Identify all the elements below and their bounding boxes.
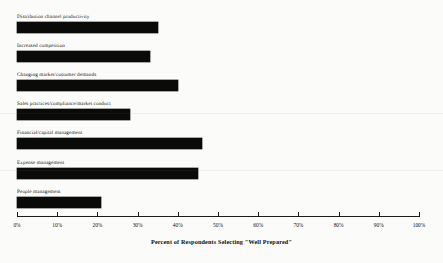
bar xyxy=(17,138,202,149)
x-axis-tick xyxy=(17,212,18,217)
x-axis-tick-label: 70% xyxy=(285,222,311,229)
bar xyxy=(17,168,198,179)
bar xyxy=(17,80,178,91)
x-axis-tick-label: 100% xyxy=(406,222,432,229)
category-label: Sales practices/compliance/market conduc… xyxy=(17,101,111,108)
category-label: Expense management xyxy=(17,160,64,167)
x-axis-tick-label: 90% xyxy=(366,222,392,229)
category-label: Financial/capital management xyxy=(17,130,82,137)
x-axis-tick xyxy=(57,212,58,217)
x-axis-tick-label: 10% xyxy=(44,222,70,229)
x-axis-tick xyxy=(258,212,259,217)
bar xyxy=(17,109,130,120)
x-axis-tick-label: 30% xyxy=(125,222,151,229)
x-axis-tick-label: 50% xyxy=(205,222,231,229)
bar xyxy=(17,22,158,33)
x-axis-tick-label: 60% xyxy=(245,222,271,229)
x-axis-tick xyxy=(339,212,340,217)
x-axis-title: Percent of Respondents Selecting "Well P… xyxy=(0,238,443,245)
x-axis-tick-label: 0% xyxy=(4,222,30,229)
category-label: Increased competition xyxy=(17,43,65,50)
x-axis-tick xyxy=(298,212,299,217)
x-axis-tick-label: 40% xyxy=(165,222,191,229)
bar-chart-plot-area: Distribution channel productivity Increa… xyxy=(0,0,443,263)
x-axis-tick xyxy=(419,212,420,217)
x-axis-tick xyxy=(218,212,219,217)
x-axis-tick xyxy=(97,212,98,217)
chart-page: Distribution channel productivity Increa… xyxy=(0,0,443,263)
bar xyxy=(17,51,150,62)
x-axis-tick-label: 80% xyxy=(326,222,352,229)
category-label: Changing market/customer demands xyxy=(17,72,96,79)
x-axis-tick xyxy=(379,212,380,217)
category-label: Distribution channel productivity xyxy=(17,14,89,21)
bar xyxy=(17,197,101,208)
category-label: People management xyxy=(17,189,61,196)
x-axis-tick xyxy=(138,212,139,217)
x-axis-tick-label: 20% xyxy=(84,222,110,229)
x-axis-tick xyxy=(178,212,179,217)
